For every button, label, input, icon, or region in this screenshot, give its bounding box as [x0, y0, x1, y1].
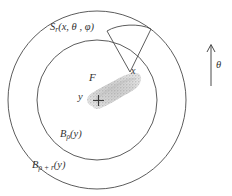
figure-canvas: Sr(x, θ , φ) Bρ(y) Bρ + r(y) F y x θ: [0, 0, 232, 196]
inner-ball-label: Bρ(y): [60, 129, 82, 141]
outer-ball-label-argument: (y): [54, 159, 66, 170]
point-y-label: y: [78, 92, 83, 103]
inner-ball-label-argument: (y): [70, 128, 82, 139]
outer-ball-label-subscript: ρ + r: [38, 163, 53, 172]
cone-sector: [107, 25, 151, 72]
point-x-label: x: [131, 66, 135, 76]
theta-direction-arrow: [207, 45, 215, 87]
cone-label: Sr(x, θ , φ): [50, 22, 94, 34]
set-f-label: F: [89, 72, 96, 83]
cone-label-argument: (x, θ , φ): [58, 21, 94, 32]
theta-label: θ: [216, 60, 221, 71]
outer-ball-label: Bρ + r(y): [32, 160, 66, 172]
